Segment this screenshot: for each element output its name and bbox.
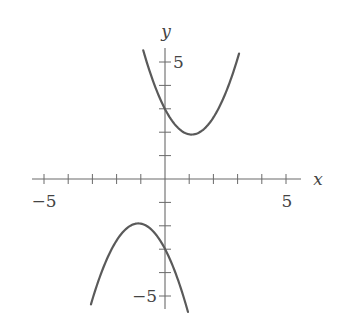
x-tick-label-5: 5 [282, 191, 293, 211]
axes [32, 48, 301, 309]
x-tick-label-neg5: −5 [31, 191, 56, 211]
y-axis-label: y [160, 21, 171, 41]
x-axis-label: x [313, 169, 323, 189]
chart: x y −5 5 5 −5 [0, 0, 347, 323]
y-tick-label-5: 5 [173, 52, 184, 72]
plot-area: x y −5 5 5 −5 [0, 0, 347, 323]
y-tick-label-neg5: −5 [132, 286, 157, 306]
upper-parabola [143, 50, 239, 134]
